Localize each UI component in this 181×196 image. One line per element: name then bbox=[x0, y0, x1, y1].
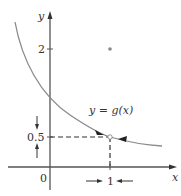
arrow-down-icon bbox=[35, 124, 39, 130]
x-axis-label: x bbox=[172, 171, 179, 184]
graph-svg: y x 2 0.5 0 1 y = g(x) bbox=[0, 0, 181, 196]
origin-label: 0 bbox=[40, 172, 47, 185]
function-label: y = g(x) bbox=[88, 104, 133, 117]
y-tick-label-2: 2 bbox=[38, 43, 45, 56]
y-axis-arrow-icon bbox=[48, 11, 53, 19]
curve-arrow-right-icon bbox=[118, 136, 127, 142]
x-axis bbox=[8, 165, 177, 170]
y-axis-label: y bbox=[37, 10, 45, 23]
arrow-right-icon bbox=[97, 179, 103, 183]
arrow-left-icon bbox=[116, 179, 122, 183]
y-tick-label-0.5: 0.5 bbox=[27, 131, 45, 144]
hole-point bbox=[108, 135, 112, 139]
x-tick-label-1: 1 bbox=[107, 175, 114, 188]
limit-diagram: y x 2 0.5 0 1 y = g(x) bbox=[0, 0, 181, 196]
x-axis-arrow-icon bbox=[169, 165, 177, 170]
isolated-point bbox=[108, 47, 112, 51]
